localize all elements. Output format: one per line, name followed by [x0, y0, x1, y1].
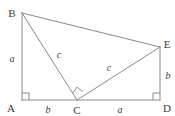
right-angle-mark-d [153, 93, 160, 100]
geometry-canvas: B A C D E a b c c a b [0, 0, 175, 116]
vertex-label-d: D [163, 102, 171, 114]
right-angle-mark-a [22, 93, 29, 100]
geometry-diagram: B A C D E a b c c a b [0, 0, 175, 116]
side-label-cd: a [118, 104, 123, 115]
vertex-label-c: C [73, 104, 80, 116]
side-label-ce: c [107, 62, 112, 73]
side-label-ab: a [10, 53, 15, 64]
segment-bc [22, 13, 77, 100]
side-label-ed: b [166, 70, 171, 81]
segment-ce [77, 47, 160, 100]
segment-be [22, 13, 160, 47]
vertex-label-a: A [7, 102, 15, 114]
right-angle-mark-c [73, 87, 83, 93]
vertex-label-e: E [164, 38, 171, 50]
side-label-bc: c [57, 49, 62, 60]
side-label-ac: b [46, 104, 51, 115]
vertex-label-b: B [8, 7, 15, 19]
